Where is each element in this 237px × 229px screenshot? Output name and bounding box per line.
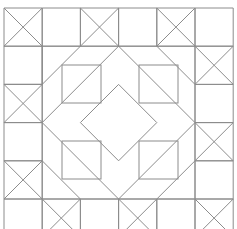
outer-diamond-edge: [42, 46, 118, 122]
outer-diamond-edge: [42, 123, 118, 199]
pattern-svg: [0, 0, 237, 229]
inset-square: [139, 65, 178, 103]
inner-diamond-edge: [119, 123, 157, 161]
x-cell-diagonal: [195, 199, 233, 229]
outer-diamond-edge: [119, 46, 195, 122]
ring-diagonal: [157, 161, 195, 199]
ring-diagonal: [42, 161, 80, 199]
x-cell-diagonal: [42, 199, 80, 229]
quilt-pattern-diagram: [0, 0, 237, 229]
x-cell-diagonal: [195, 199, 233, 229]
inner-diamond-edge: [80, 123, 118, 161]
inset-square: [62, 141, 101, 179]
x-cell-diagonal: [119, 199, 157, 229]
x-cell-diagonal: [119, 199, 157, 229]
x-cell-diagonal: [42, 199, 80, 229]
outer-diamond-edge: [119, 123, 195, 199]
